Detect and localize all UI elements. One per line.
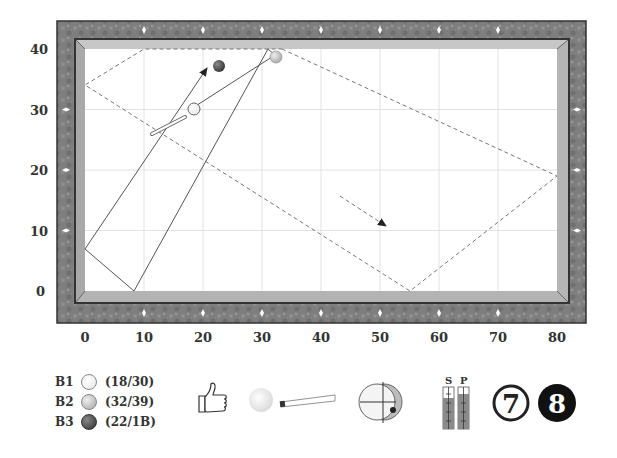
cue-ball-icon [249,388,273,412]
cushion-left [76,40,85,302]
x-tick: 60 [430,330,448,345]
speed-label: S [445,375,452,386]
y-tick: 0 [36,284,45,299]
number-seven-badge: 7 [494,386,528,420]
ball-b3-icon [81,414,97,430]
legend-row-b3: B3 (22/1B) [55,412,156,432]
speed-power-indicator: S P [443,375,469,429]
legend-row-b2: B2 (32/39) [55,392,156,412]
x-tick: 20 [194,330,212,345]
x-tick: 30 [253,330,271,345]
x-tick: 10 [135,330,153,345]
ball-coord: (18/30) [105,375,154,389]
ball-legend: B1 (18/30) B2 (32/39) B3 (22/1B) [55,372,156,432]
x-axis: 0 10 20 30 40 50 60 70 80 [80,330,566,345]
x-tick: 50 [371,330,389,345]
x-tick: 0 [80,330,89,345]
svg-text:8: 8 [548,389,566,419]
y-tick: 40 [30,42,48,57]
power-label: P [460,375,468,386]
ball-label: B2 [55,395,81,409]
thumbs-up-icon [199,383,226,412]
y-tick: 20 [30,163,48,178]
x-tick: 70 [489,330,507,345]
number-eight-badge: 8 [538,384,576,422]
ball-coord: (22/1B) [105,415,156,429]
ball-b1 [188,103,200,115]
svg-text:7: 7 [502,389,520,419]
ball-label: B1 [55,375,81,389]
cue-stick-icon [280,395,335,407]
cushion-bottom [76,291,568,302]
ball-b2 [270,51,282,63]
ball-coord: (32/39) [105,395,154,409]
ball-b3 [213,60,225,72]
spin-point [390,407,396,413]
table [57,21,586,323]
x-tick: 40 [312,330,330,345]
y-tick: 30 [30,103,48,118]
legend-row-b1: B1 (18/30) [55,372,156,392]
x-tick: 80 [548,330,566,345]
cushion-right [557,40,568,302]
y-axis: 40 30 20 10 0 [30,42,48,299]
ball-label: B3 [55,415,81,429]
ball-b2-icon [81,394,97,410]
ball-b1-icon [81,374,97,390]
y-tick: 10 [30,224,48,239]
spin-indicator-icon [359,382,402,423]
cushion-top [76,40,568,49]
